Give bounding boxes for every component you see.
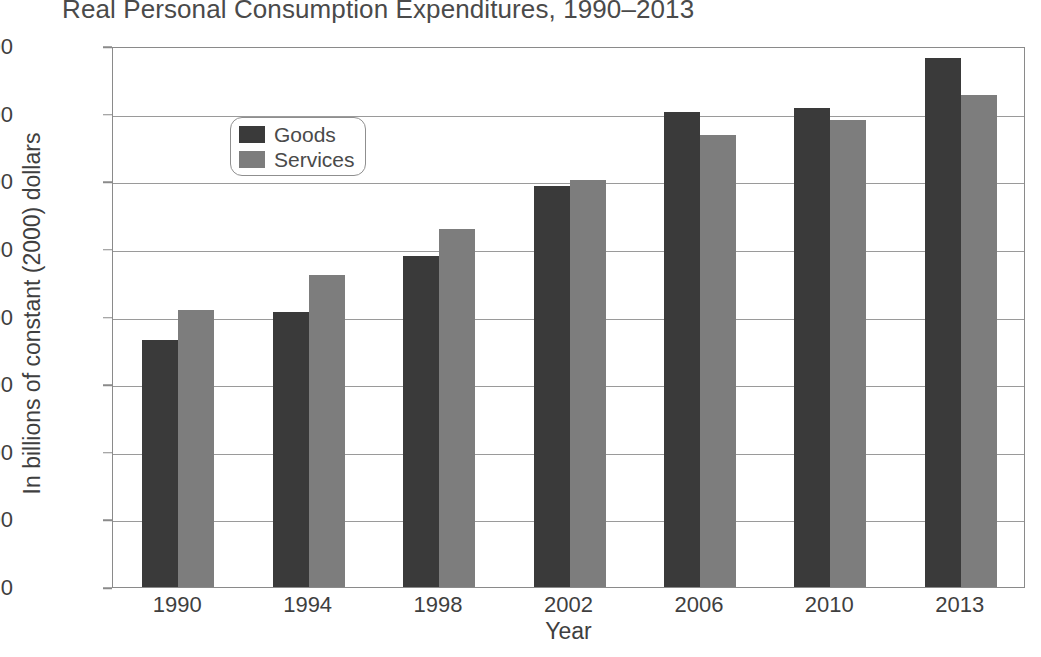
legend-swatch-icon [239, 126, 265, 143]
bar-goods-1994 [273, 312, 309, 587]
y-axis-tick-mark [103, 452, 112, 454]
x-axis-title: Year [112, 618, 1025, 645]
chart-figure: Real Personal Consumption Expenditures, … [0, 0, 1041, 657]
gridline [113, 183, 1024, 184]
bar-goods-2013 [925, 58, 961, 587]
y-axis-tick-label: 7,000 [0, 102, 13, 128]
y-axis-tick-mark [103, 520, 112, 522]
y-axis-tick-mark [103, 317, 112, 319]
bar-services-1990 [178, 310, 214, 587]
legend-label: Goods [274, 124, 336, 145]
y-axis-tick-mark [103, 182, 112, 184]
y-axis-tick-label: 6,000 [0, 169, 13, 195]
bar-services-1994 [309, 275, 345, 587]
y-axis-tick-mark [103, 587, 112, 589]
bar-goods-2010 [794, 108, 830, 587]
bar-services-1998 [439, 229, 475, 587]
legend-swatch-icon [239, 151, 265, 168]
y-axis-tick-label: 5,000 [0, 237, 13, 263]
legend-item-goods[interactable]: Goods [239, 122, 365, 147]
y-axis-tick-label: 3,000 [0, 372, 13, 398]
bar-services-2006 [700, 135, 736, 587]
bar-goods-1990 [142, 340, 178, 587]
y-axis-tick-mark [103, 249, 112, 251]
bar-services-2013 [961, 95, 997, 587]
plot-area: GoodsServices [112, 47, 1025, 588]
y-axis-title: In billions of constant (2000) dollars [19, 34, 46, 594]
x-axis-tick-label: 2013 [880, 592, 1040, 618]
y-axis-tick-label: 0 [0, 575, 13, 601]
legend-label: Services [274, 149, 355, 170]
y-axis-tick-label: 8,000 [0, 34, 13, 60]
y-axis-tick-mark [103, 384, 112, 386]
y-axis-tick-mark [103, 114, 112, 116]
y-axis-tick-mark [103, 46, 112, 48]
y-axis-tick-label: 4,000 [0, 305, 13, 331]
chart-legend: GoodsServices [230, 117, 366, 176]
y-axis-tick-label: 1,000 [0, 507, 13, 533]
bar-services-2002 [570, 180, 606, 587]
y-axis-tick-label: 2,000 [0, 440, 13, 466]
bar-goods-1998 [403, 256, 439, 587]
bar-goods-2002 [534, 186, 570, 587]
legend-item-services[interactable]: Services [239, 147, 365, 172]
bar-services-2010 [830, 120, 866, 587]
chart-title: Real Personal Consumption Expenditures, … [62, 0, 694, 25]
bar-goods-2006 [664, 112, 700, 587]
